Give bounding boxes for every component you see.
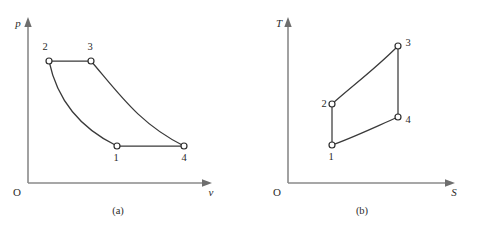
- panel-a-state-marker-1: [114, 143, 120, 149]
- panel-b-group: 2 1 3 4 T S O (b): [273, 17, 457, 217]
- panel-b-state-marker-1: [329, 142, 335, 148]
- panel-b-x-axis-label: S: [451, 186, 457, 198]
- panel-b-state-marker-2: [329, 101, 335, 107]
- panel-a-state-label-2: 2: [42, 41, 47, 52]
- panel-b-state-label-2: 2: [321, 98, 326, 109]
- panel-b-state-marker-4: [395, 114, 401, 120]
- panel-b-state-label-3: 3: [405, 37, 410, 48]
- panel-b-y-axis-label: T: [276, 17, 283, 29]
- panel-a-process-1-2: [49, 61, 117, 146]
- panel-b-state-label-4: 4: [405, 114, 411, 125]
- panel-a-x-axis-label: v: [209, 186, 214, 198]
- panel-a-caption: (a): [112, 205, 124, 217]
- panel-b-state-label-1: 1: [328, 151, 333, 162]
- thermodynamic-cycle-figure: 2 3 1 4 p v O (a): [0, 0, 488, 226]
- panel-a-y-axis-label: p: [14, 17, 21, 29]
- panel-a-state-label-1: 1: [113, 152, 118, 163]
- panel-a-group: 2 3 1 4 p v O (a): [13, 17, 214, 217]
- panel-a-state-label-4: 4: [181, 152, 187, 163]
- panel-a-process-3-4: [91, 61, 184, 146]
- panel-a-state-marker-4: [181, 143, 187, 149]
- panel-a-y-axis-arrow-icon: [24, 17, 31, 27]
- panel-a-state-marker-2: [46, 58, 52, 64]
- panel-a-state-marker-3: [88, 58, 94, 64]
- panel-b-y-axis-arrow-icon: [284, 17, 291, 27]
- panel-b-caption: (b): [356, 205, 369, 217]
- panel-b-state-marker-3: [395, 43, 401, 49]
- panel-a-state-label-3: 3: [87, 41, 92, 52]
- figure-container: 2 3 1 4 p v O (a): [0, 0, 488, 226]
- panel-b-process-4-1: [332, 117, 398, 145]
- panel-a-origin-label: O: [13, 186, 21, 198]
- panel-b-process-2-3: [332, 46, 398, 104]
- panel-b-origin-label: O: [273, 186, 281, 198]
